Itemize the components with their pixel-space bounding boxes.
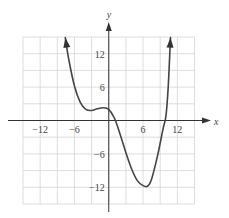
- x-tick-label: 12: [172, 124, 182, 135]
- x-tick-label: 6: [141, 124, 146, 135]
- y-tick-label: −12: [89, 182, 105, 193]
- curve-arrow-left-icon: [63, 38, 70, 48]
- function-graph: x y −12−6612126−6−12: [0, 0, 229, 218]
- y-tick-label: −6: [94, 149, 105, 160]
- y-axis-arrow-icon: [106, 22, 112, 31]
- y-axis-label: y: [106, 9, 112, 20]
- y-tick-label: 6: [100, 82, 105, 93]
- x-tick-label: −6: [69, 124, 80, 135]
- x-axis-label: x: [213, 116, 219, 127]
- curve-arrow-right-icon: [167, 38, 174, 48]
- x-axis-arrow-icon: [202, 118, 211, 124]
- x-tick-label: −12: [32, 124, 48, 135]
- curve-group: [63, 38, 173, 187]
- y-tick-label: 12: [95, 49, 105, 60]
- function-curve: [65, 38, 170, 187]
- axes: x y: [8, 9, 219, 212]
